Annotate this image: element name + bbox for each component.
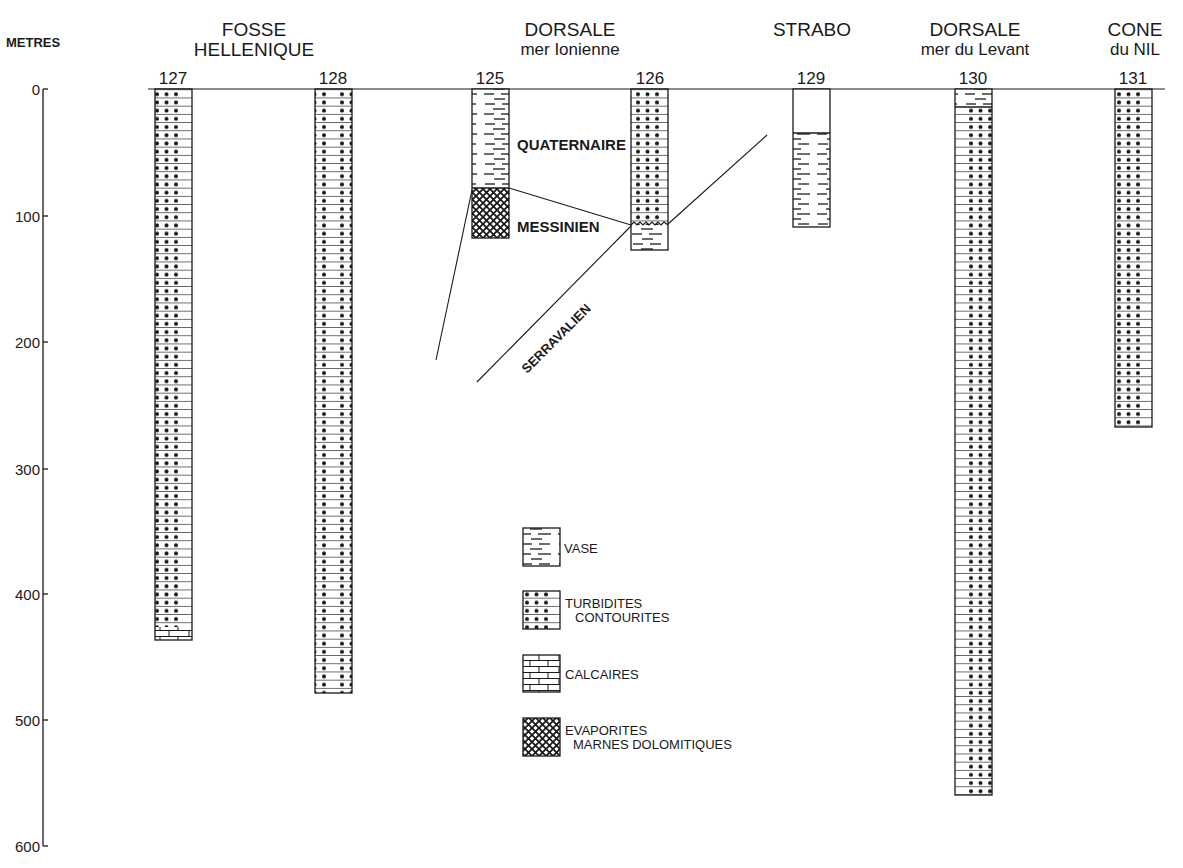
header-ionienne-line2: mer Ionienne — [520, 40, 619, 59]
layer-turbidites — [1115, 89, 1152, 427]
site-127-label: 127 — [159, 69, 187, 88]
label-serravalien: SERRAVALIEN — [519, 301, 594, 376]
layer-turbidites — [955, 107, 992, 795]
tick-200: 200 — [15, 334, 40, 351]
serravalien-upper-line — [668, 135, 767, 224]
column-126 — [631, 89, 668, 250]
vase-swatch — [523, 528, 560, 566]
site-125-label: 125 — [476, 69, 504, 88]
layer-empty — [793, 89, 830, 133]
site-numbers: 127 128 125 126 129 130 131 — [159, 69, 1147, 88]
legend-evaporites-label1: EVAPORITES — [565, 723, 647, 738]
tick-0: 0 — [32, 81, 40, 98]
legend-item-calcaires: CALCAIRES — [523, 655, 639, 692]
site-131-label: 131 — [1119, 69, 1147, 88]
tick-300: 300 — [15, 461, 40, 478]
legend-item-turbidites: TURBIDITES CONTOURITES — [523, 591, 670, 629]
layer-calcaires — [155, 627, 192, 640]
column-127 — [155, 89, 192, 640]
layer-turbidites — [155, 89, 192, 627]
tick-100: 100 — [15, 208, 40, 225]
header-fosse-line2: HELLENIQUE — [194, 39, 314, 60]
layer-evaporites — [472, 188, 509, 238]
column-130 — [955, 89, 992, 795]
calcaires-swatch — [523, 655, 560, 692]
column-125 — [472, 89, 509, 238]
site-130-label: 130 — [959, 69, 987, 88]
column-128 — [315, 89, 352, 693]
axis-label: METRES — [6, 35, 61, 50]
header-nil-line2: du NIL — [1110, 40, 1160, 59]
layer-turbidites — [315, 89, 352, 693]
stratigraphic-diagram: METRES 0 100 200 300 400 500 600 FOSSE H… — [0, 0, 1183, 868]
header-levant-line2: mer du Levant — [921, 40, 1030, 59]
layer-vase — [631, 225, 668, 250]
legend-vase-label: VASE — [564, 541, 598, 556]
site-126-label: 126 — [636, 69, 664, 88]
tick-400: 400 — [15, 586, 40, 603]
tick-600: 600 — [15, 838, 40, 855]
legend-calcaires-label: CALCAIRES — [565, 667, 639, 682]
site-128-label: 128 — [319, 69, 347, 88]
depth-axis: METRES 0 100 200 300 400 500 600 — [6, 35, 61, 855]
evaporites-swatch — [523, 718, 560, 756]
label-quaternaire: QUATERNAIRE — [517, 136, 626, 153]
legend-turbidites-label2: CONTOURITES — [575, 610, 670, 625]
region-headers: FOSSE HELLENIQUE DORSALE mer Ionienne ST… — [194, 19, 1163, 60]
legend: VASE TURBIDITES CONTOURITES CALCAIRES EV… — [523, 528, 732, 756]
layer-vase — [472, 89, 509, 188]
serravalien-lower-line — [477, 226, 631, 382]
column-131 — [1115, 89, 1152, 427]
header-strabo: STRABO — [773, 19, 851, 40]
header-levant-line1: DORSALE — [930, 19, 1021, 40]
turbidites-swatch — [523, 591, 560, 629]
legend-turbidites-label1: TURBIDITES — [565, 596, 643, 611]
column-129 — [793, 89, 830, 227]
layer-vase — [793, 133, 830, 227]
layer-vase — [955, 89, 992, 107]
legend-item-vase: VASE — [523, 528, 598, 566]
header-fosse-line1: FOSSE — [222, 19, 286, 40]
legend-evaporites-label2: MARNES DOLOMITIQUES — [573, 737, 732, 752]
site-129-label: 129 — [797, 69, 825, 88]
tick-500: 500 — [15, 712, 40, 729]
header-nil-line1: CONE — [1108, 19, 1163, 40]
legend-item-evaporites: EVAPORITES MARNES DOLOMITIQUES — [523, 718, 732, 756]
messinien-base-line — [436, 190, 472, 360]
layer-turbidites — [631, 89, 668, 225]
header-ionienne-line1: DORSALE — [525, 19, 616, 40]
label-messinien: MESSINIEN — [517, 218, 600, 235]
